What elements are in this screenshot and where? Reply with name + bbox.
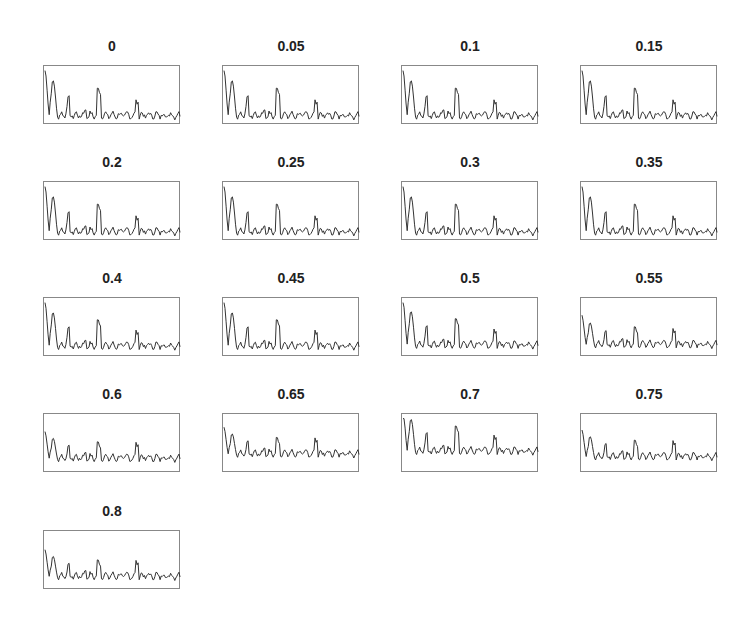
- plot-frame: [580, 297, 717, 356]
- panel-title: 0.45: [222, 270, 360, 286]
- plot-frame: [222, 297, 359, 356]
- panel-title: 0.55: [580, 270, 718, 286]
- panel-title: 0.05: [222, 38, 360, 54]
- line-series: [44, 182, 181, 241]
- panel-title: 0.65: [222, 386, 360, 402]
- plot-frame: [43, 65, 180, 124]
- panel-title: 0.4: [43, 270, 181, 286]
- plot-frame: [43, 181, 180, 240]
- plot-frame: [401, 297, 538, 356]
- plot-frame: [401, 413, 538, 472]
- panel-title: 0.1: [401, 38, 539, 54]
- panel-title: 0.3: [401, 154, 539, 170]
- line-series: [223, 414, 360, 473]
- line-series: [402, 414, 539, 473]
- panel-title: 0.2: [43, 154, 181, 170]
- plot-frame: [580, 181, 717, 240]
- line-series: [402, 182, 539, 241]
- panel-title: 0.15: [580, 38, 718, 54]
- line-series: [44, 531, 181, 590]
- panel-title: 0.35: [580, 154, 718, 170]
- plot-frame: [401, 65, 538, 124]
- panel-title: 0.75: [580, 386, 718, 402]
- line-series: [223, 298, 360, 357]
- plot-frame: [222, 65, 359, 124]
- line-series: [44, 66, 181, 125]
- line-series: [402, 298, 539, 357]
- line-series: [223, 66, 360, 125]
- plot-frame: [401, 181, 538, 240]
- line-series: [44, 298, 181, 357]
- plot-frame: [222, 413, 359, 472]
- panel-title: 0.25: [222, 154, 360, 170]
- panel-title: 0: [43, 38, 181, 54]
- panel-title: 0.5: [401, 270, 539, 286]
- panel-title: 0.8: [43, 503, 181, 519]
- plot-frame: [580, 65, 717, 124]
- plot-frame: [222, 181, 359, 240]
- line-series: [581, 182, 718, 241]
- line-series: [581, 414, 718, 473]
- line-series: [402, 66, 539, 125]
- line-series: [581, 66, 718, 125]
- line-series: [223, 182, 360, 241]
- plot-frame: [43, 297, 180, 356]
- line-series: [44, 414, 181, 473]
- plot-frame: [580, 413, 717, 472]
- panel-title: 0.7: [401, 386, 539, 402]
- plot-frame: [43, 530, 180, 589]
- plot-frame: [43, 413, 180, 472]
- panel-title: 0.6: [43, 386, 181, 402]
- line-series: [581, 298, 718, 357]
